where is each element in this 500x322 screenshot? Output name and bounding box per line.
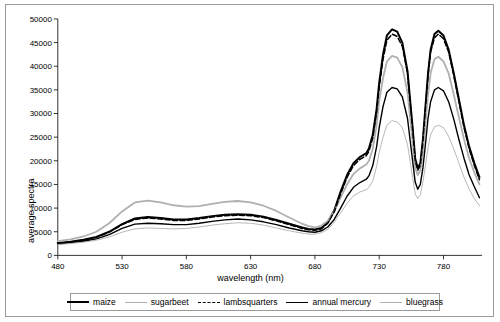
- svg-text:680: 680: [308, 262, 322, 271]
- svg-text:25000: 25000: [30, 133, 53, 142]
- svg-text:730: 730: [373, 262, 387, 271]
- chart-legend: maizesugarbeetlambsquartersannual mercur…: [70, 293, 440, 311]
- svg-text:20000: 20000: [30, 157, 53, 166]
- legend-swatch: [380, 302, 402, 303]
- chart-root: 0500010000150002000025000300003500040000…: [0, 0, 500, 322]
- legend-item: bluegrass: [380, 297, 443, 307]
- y-axis-label-text: average spectra: [26, 178, 36, 243]
- legend-label: bluegrass: [406, 297, 443, 307]
- chart-frame: 0500010000150002000025000300003500040000…: [5, 4, 494, 317]
- svg-text:40000: 40000: [30, 62, 53, 71]
- svg-text:480: 480: [51, 262, 65, 271]
- chart-plot: 0500010000150002000025000300003500040000…: [6, 5, 493, 316]
- legend-item: lambsquarters: [198, 297, 278, 307]
- series-line: [58, 56, 480, 241]
- svg-text:35000: 35000: [30, 86, 53, 95]
- legend-label: annual mercury: [312, 297, 371, 307]
- legend-swatch: [125, 302, 147, 303]
- series-line: [58, 29, 480, 243]
- svg-text:45000: 45000: [30, 39, 53, 48]
- x-axis-label: wavelength (nm): [6, 273, 495, 283]
- svg-text:780: 780: [437, 262, 451, 271]
- legend-swatch: [198, 302, 220, 303]
- svg-text:630: 630: [244, 262, 258, 271]
- legend-item: maize: [67, 297, 116, 307]
- svg-text:530: 530: [115, 262, 129, 271]
- legend-item: sugarbeet: [125, 297, 189, 307]
- svg-text:50000: 50000: [30, 15, 53, 24]
- legend-swatch: [286, 302, 308, 303]
- legend-label: maize: [93, 297, 116, 307]
- legend-swatch: [67, 301, 89, 303]
- svg-text:0: 0: [47, 251, 52, 260]
- legend-item: annual mercury: [286, 297, 371, 307]
- svg-text:580: 580: [180, 262, 194, 271]
- y-axis-label: average spectra: [12, 65, 28, 245]
- legend-label: lambsquarters: [224, 297, 278, 307]
- svg-text:30000: 30000: [30, 109, 53, 118]
- legend-label: sugarbeet: [151, 297, 189, 307]
- svg-text:5000: 5000: [34, 228, 52, 237]
